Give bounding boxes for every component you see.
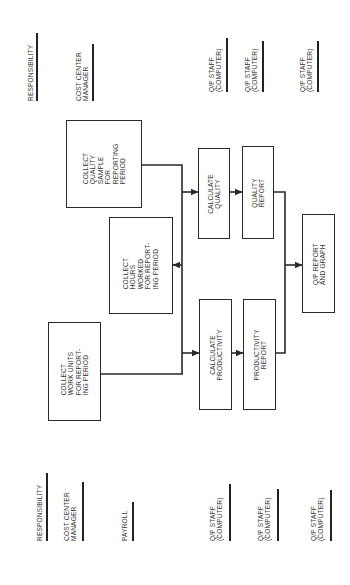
box-text: COLLECT QUALITY SAMPLE FOR REPORTING PER… <box>82 144 126 184</box>
label-underline <box>229 484 231 541</box>
label-text: COST CENTER MANAGER <box>75 52 90 101</box>
label-underline <box>226 38 228 92</box>
box-productivity-report: PRODUCTIVITY REPORT <box>243 299 276 410</box>
label-text: Q/P STAFF (COMPUTER) <box>208 48 223 92</box>
box-text: CALCULATE PRODUCTIVITY <box>208 329 223 380</box>
box-text: CALCULATE QUALITY <box>207 174 222 214</box>
box-collect-hours-worked: COLLECT HOURS WORKED FOR REPORT- ING PER… <box>109 217 173 314</box>
box-text: QUALITY REPORT <box>251 178 266 207</box>
label-text: Q/P STAFF (COMPUTER) <box>257 497 272 541</box>
label-text: Q/P STAFF (COMPUTER) <box>244 48 259 92</box>
label-qp-staff-bottom-1: Q/P STAFF (COMPUTER) <box>209 484 231 541</box>
flowchart-canvas: RESPONSIBILITY COST CENTER MANAGER Q/P S… <box>0 0 350 585</box>
box-text: COLLECT HOURS WORKED FOR REPORT- ING PER… <box>122 242 159 289</box>
box-collect-work-units: COLLECT WORK UNITS FOR REPORT- ING PERIO… <box>48 322 101 421</box>
label-payroll-bottom: PAYROLL <box>121 502 134 541</box>
label-text: Q/P STAFF (COMPUTER) <box>209 497 224 541</box>
label-underline <box>330 490 332 541</box>
label-text: Q/P STAFF (COMPUTER) <box>299 48 314 92</box>
label-responsibility-top: RESPONSIBILITY <box>27 33 39 101</box>
label-underline <box>262 41 264 92</box>
label-underline <box>46 473 48 541</box>
box-text: Q/P REPORT AND GRAPH <box>311 243 326 285</box>
box-collect-quality-sample: COLLECT QUALITY SAMPLE FOR REPORTING PER… <box>66 120 142 208</box>
label-qp-staff-top-1: Q/P STAFF (COMPUTER) <box>208 38 228 92</box>
label-underline <box>36 33 38 101</box>
box-calculate-quality: CALCULATE QUALITY <box>198 148 230 239</box>
label-qp-staff-top-3: Q/P STAFF (COMPUTER) <box>299 41 319 92</box>
label-text: Q/P STAFF (COMPUTER) <box>310 497 325 541</box>
label-underline <box>132 502 134 541</box>
label-underline <box>92 44 94 101</box>
label-qp-staff-top-2: Q/P STAFF (COMPUTER) <box>244 41 264 92</box>
label-underline <box>317 41 319 92</box>
label-responsibility-bottom: RESPONSIBILITY <box>36 473 48 541</box>
label-underline <box>82 482 84 541</box>
label-underline <box>277 489 279 541</box>
box-quality-report: QUALITY REPORT <box>242 146 274 239</box>
label-text: COST CENTER MANAGER <box>63 492 78 541</box>
label-text: PAYROLL <box>121 511 128 542</box>
label-text: RESPONSIBILITY <box>36 485 43 541</box>
label-text: RESPONSIBILITY <box>27 45 34 101</box>
label-cost-center-manager-top: COST CENTER MANAGER <box>75 44 93 101</box>
box-calculate-productivity: CALCULATE PRODUCTIVITY <box>199 299 232 410</box>
connector-lines <box>0 0 350 585</box>
box-text: PRODUCTIVITY REPORT <box>252 329 267 380</box>
label-cost-center-manager-bottom: COST CENTER MANAGER <box>63 482 83 541</box>
box-text: COLLECT WORK UNITS FOR REPORT- ING PERIO… <box>60 348 90 395</box>
box-qp-report-and-graph: Q/P REPORT AND GRAPH <box>302 214 335 313</box>
label-qp-staff-bottom-3: Q/P STAFF (COMPUTER) <box>310 490 332 541</box>
label-qp-staff-bottom-2: Q/P STAFF (COMPUTER) <box>257 489 279 541</box>
